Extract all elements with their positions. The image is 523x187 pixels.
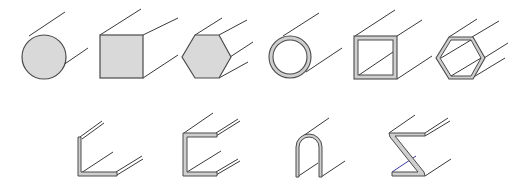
channel-profile bbox=[183, 113, 240, 176]
solid-square-bar bbox=[100, 9, 178, 78]
u-profile bbox=[296, 118, 345, 177]
hexagonal-tube bbox=[436, 19, 508, 79]
z-profile bbox=[389, 115, 451, 176]
angle-profile bbox=[78, 121, 143, 176]
solid-round-bar bbox=[22, 12, 88, 79]
solid-hexagonal-bar bbox=[182, 18, 253, 78]
round-tube bbox=[269, 13, 342, 78]
square-tube bbox=[354, 10, 432, 79]
profile-shapes-diagram bbox=[0, 0, 523, 187]
